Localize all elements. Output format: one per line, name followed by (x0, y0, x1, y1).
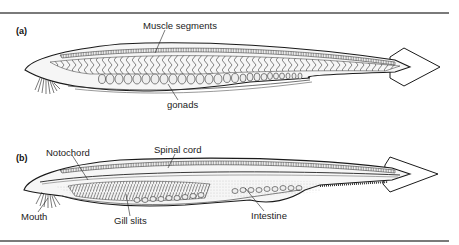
lancelet-a (25, 30, 440, 100)
gonads-a (99, 73, 303, 85)
lancelet-b (24, 154, 438, 216)
mouth-leader (38, 198, 48, 212)
lancelet-diagram (0, 0, 459, 245)
